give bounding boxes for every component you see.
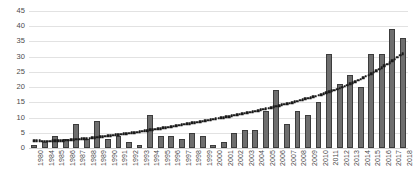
x-axis-tick-label: 2012	[343, 150, 350, 166]
x-axis-tick-label: 1997	[185, 150, 192, 166]
x-axis-tick-label: 2006	[279, 150, 286, 166]
x-axis-tick-label: 1999	[206, 150, 213, 166]
x-axis-tick-label: 1987	[79, 150, 86, 166]
x-axis-tick-label: 1990	[111, 150, 118, 166]
x-axis-tick-label: 2008	[300, 150, 307, 166]
x-axis-tick-label: 2018	[406, 150, 413, 166]
x-axis-tick-label: 1991	[121, 150, 128, 166]
x-axis-tick-label: 2015	[374, 150, 381, 166]
x-axis-tick-label: 2016	[385, 150, 392, 166]
y-axis-tick-label: 30	[16, 53, 25, 61]
x-axis-tick-label: 1996	[174, 150, 181, 166]
x-axis-tick-label: 1980	[37, 150, 44, 166]
y-axis: 454035302520151050	[0, 0, 29, 184]
y-axis-tick-label: 5	[21, 129, 25, 137]
x-axis-tick-label: 2005	[269, 150, 276, 166]
x-axis-tick-label: 2017	[395, 150, 402, 166]
trendline-layer	[29, 11, 408, 148]
trendline-dot	[401, 52, 404, 55]
x-axis-tick-label: 2000	[216, 150, 223, 166]
x-axis-tick-label: 1984	[48, 150, 55, 166]
x-axis-tick-label: 1994	[153, 150, 160, 166]
y-axis-tick-label: 35	[16, 38, 25, 46]
x-axis-tick-label: 1992	[132, 150, 139, 166]
x-axis-tick-label: 2004	[258, 150, 265, 166]
y-axis-tick-label: 0	[21, 144, 25, 152]
x-axis: 1980198419851986198719881989199019911992…	[29, 150, 408, 184]
plot-area	[29, 11, 408, 148]
y-axis-tick-label: 10	[16, 114, 25, 122]
x-axis-tick-label: 2013	[353, 150, 360, 166]
y-axis-tick-label: 15	[16, 99, 25, 107]
x-axis-tick-label: 2003	[248, 150, 255, 166]
x-axis-tick-label: 2009	[311, 150, 318, 166]
x-axis-tick-label: 1998	[195, 150, 202, 166]
x-axis-tick-label: 1986	[69, 150, 76, 166]
y-axis-tick-label: 45	[16, 7, 25, 15]
x-axis-tick-label: 2010	[322, 150, 329, 166]
x-axis-tick-label: 2011	[332, 150, 339, 165]
x-axis-tick-label: 1993	[143, 150, 150, 166]
bar-chart: 454035302520151050 198019841985198619871…	[0, 0, 413, 184]
y-axis-tick-label: 20	[16, 83, 25, 91]
x-axis-tick-label: 1985	[58, 150, 65, 166]
x-axis-tick-label: 2007	[290, 150, 297, 166]
y-axis-tick-label: 40	[16, 22, 25, 30]
x-axis-tick-label: 1988	[90, 150, 97, 166]
x-axis-tick-label: 2001	[227, 150, 234, 166]
x-axis-tick-label: 1989	[100, 150, 107, 166]
x-axis-tick-label: 1995	[164, 150, 171, 166]
y-axis-tick-label: 25	[16, 68, 25, 76]
axis-baseline	[29, 148, 408, 149]
x-axis-tick-label: 2002	[237, 150, 244, 166]
x-axis-tick-label: 2014	[364, 150, 371, 166]
